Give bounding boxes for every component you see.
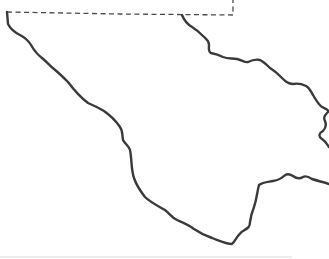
east-river-boundary bbox=[182, 15, 329, 147]
dashed-boundary bbox=[7, 0, 233, 15]
southwest-river-boundary bbox=[7, 12, 329, 244]
bottom-divider bbox=[0, 256, 292, 258]
outline-map bbox=[0, 0, 329, 259]
